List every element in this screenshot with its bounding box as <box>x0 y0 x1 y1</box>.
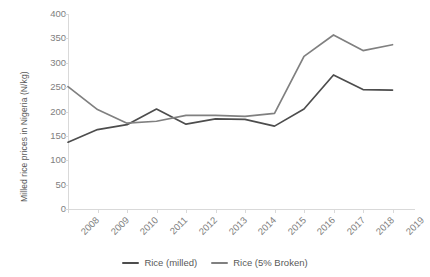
legend-color-swatch <box>211 262 228 264</box>
line-chart: Milled rice prices in Nigeria (N/kg) 050… <box>0 0 430 277</box>
y-axis-tick-mark <box>64 63 68 64</box>
y-axis-tick-mark <box>64 185 68 186</box>
x-axis-tick-mark <box>216 209 217 213</box>
y-axis-tick-mark <box>64 160 68 161</box>
legend-item[interactable]: Rice (milled) <box>122 258 197 268</box>
x-axis-tick-mark <box>127 209 128 213</box>
x-axis-tick-mark <box>334 209 335 213</box>
x-axis-tick-mark <box>393 209 394 213</box>
x-axis-tick-label: 2009 <box>109 215 131 237</box>
x-axis-tick-mark <box>186 209 187 213</box>
x-axis-tick-mark <box>363 209 364 213</box>
x-axis-tick-label: 2012 <box>197 215 219 237</box>
y-axis-tick-mark <box>64 87 68 88</box>
x-axis-tick-mark <box>98 209 99 213</box>
x-axis-tick-label: 2011 <box>167 215 188 236</box>
legend-color-swatch <box>122 262 139 264</box>
x-axis-tick-mark <box>304 209 305 213</box>
x-axis-tick-label: 2014 <box>256 215 278 237</box>
x-axis-tick-label: 2016 <box>315 215 337 237</box>
x-axis-tick-label: 2015 <box>286 215 308 237</box>
y-axis-tick-mark <box>64 14 68 15</box>
x-axis-tick-label: 2019 <box>404 215 426 237</box>
x-axis-tick-label: 2013 <box>227 215 249 237</box>
y-axis-tick-mark <box>64 136 68 137</box>
x-axis-tick-label: 2018 <box>374 215 396 237</box>
y-axis-tick-mark <box>64 112 68 113</box>
x-axis-tick-labels: 2008200920102011201220132014201520162017… <box>0 209 430 255</box>
x-axis-tick-mark <box>68 209 69 213</box>
series-line <box>68 75 393 142</box>
x-axis-tick-mark <box>157 209 158 213</box>
x-axis-tick-mark <box>245 209 246 213</box>
x-axis-tick-mark <box>275 209 276 213</box>
x-axis-tick-label: 2017 <box>345 215 367 237</box>
x-axis-tick-label: 2010 <box>138 215 160 237</box>
legend-label: Rice (milled) <box>144 258 197 268</box>
legend-label: Rice (5% Broken) <box>233 258 307 268</box>
x-axis-tick-label: 2008 <box>79 215 101 237</box>
y-axis-tick-mark <box>64 38 68 39</box>
series-line <box>68 35 393 123</box>
legend-item[interactable]: Rice (5% Broken) <box>211 258 307 268</box>
chart-legend: Rice (milled)Rice (5% Broken) <box>0 252 430 274</box>
